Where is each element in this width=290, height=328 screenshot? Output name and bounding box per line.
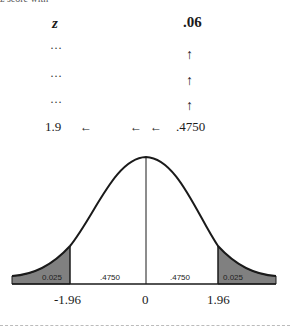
axis-label-neg-196: -1.96 — [54, 292, 81, 308]
axis-label-pos-196: 1.96 — [207, 292, 230, 308]
bell-curve — [12, 157, 276, 276]
right-center-label: .4750 — [170, 273, 191, 282]
axis-label-zero: 0 — [142, 292, 149, 308]
left-tail-label: 0.025 — [42, 273, 63, 282]
dashed-divider — [0, 325, 290, 326]
normal-curve-diagram: 0.025 .4750 .4750 0.025 — [0, 0, 290, 328]
right-tail-label: 0.025 — [223, 273, 244, 282]
left-center-label: .4750 — [100, 273, 121, 282]
